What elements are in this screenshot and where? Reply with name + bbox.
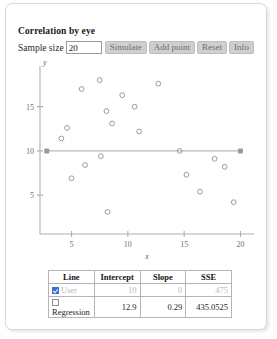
column-header-sse: SSE xyxy=(186,271,232,284)
add-point-button[interactable]: Add point xyxy=(149,41,195,54)
toolbar: Sample size Simulate Add point Reset Inf… xyxy=(18,40,256,55)
regression-line-label: Regression xyxy=(52,307,90,317)
user-line-cell: User xyxy=(49,284,95,297)
sample-size-input[interactable] xyxy=(66,41,102,54)
sample-size-label: Sample size xyxy=(18,43,64,53)
x-tick-label: 15 xyxy=(180,240,188,249)
regression-line-cell: Regression xyxy=(49,297,95,318)
data-point[interactable] xyxy=(198,189,203,194)
x-tick-label: 20 xyxy=(236,240,244,249)
data-point[interactable] xyxy=(132,104,137,109)
statistics-table: Line Intercept Slope SSE User 10 0 475 xyxy=(48,270,232,318)
data-point[interactable] xyxy=(104,109,109,114)
info-button[interactable]: Info xyxy=(229,41,254,54)
reset-button[interactable]: Reset xyxy=(197,41,227,54)
y-tick-label: 5 xyxy=(30,191,34,200)
regression-line-checkbox[interactable] xyxy=(52,299,59,306)
x-tick-label: 5 xyxy=(70,240,74,249)
user-slope-value: 0 xyxy=(140,284,186,297)
x-axis-label: x xyxy=(144,252,149,261)
user-line-label: User xyxy=(61,285,77,295)
regression-slope-value: 0.29 xyxy=(140,297,186,318)
table-header-row: Line Intercept Slope SSE xyxy=(49,271,232,284)
user-line-handle[interactable] xyxy=(238,148,243,153)
data-point[interactable] xyxy=(65,125,70,130)
page-title: Correlation by eye xyxy=(18,26,95,36)
user-line-handle[interactable] xyxy=(44,148,49,153)
x-tick-label: 10 xyxy=(124,240,132,249)
user-line-checkbox[interactable] xyxy=(52,287,59,294)
plot-canvas[interactable]: 510152051015yx xyxy=(14,56,260,261)
y-tick-label: 15 xyxy=(26,103,34,112)
regression-sse-value: 435.0525 xyxy=(186,297,232,318)
column-header-intercept: Intercept xyxy=(94,271,140,284)
data-point[interactable] xyxy=(79,87,84,92)
scatter-plot[interactable]: 510152051015yx xyxy=(14,56,260,261)
table-row: Regression 12.9 0.29 435.0525 xyxy=(49,297,232,318)
data-point[interactable] xyxy=(110,121,115,126)
table-row: User 10 0 475 xyxy=(49,284,232,297)
data-point[interactable] xyxy=(97,78,102,83)
data-point[interactable] xyxy=(231,200,236,205)
data-point[interactable] xyxy=(69,176,74,181)
applet-card: Correlation by eye Sample size Simulate … xyxy=(5,3,267,330)
column-header-line: Line xyxy=(49,271,95,284)
data-point[interactable] xyxy=(98,154,103,159)
simulate-button[interactable]: Simulate xyxy=(105,41,147,54)
data-point[interactable] xyxy=(222,164,227,169)
y-axis-label: y xyxy=(42,58,47,67)
user-sse-value: 475 xyxy=(186,284,232,297)
data-point[interactable] xyxy=(83,163,88,168)
data-point[interactable] xyxy=(120,93,125,98)
data-point[interactable] xyxy=(137,129,142,134)
y-tick-label: 10 xyxy=(26,147,34,156)
data-point[interactable] xyxy=(184,172,189,177)
user-intercept-value: 10 xyxy=(94,284,140,297)
column-header-slope: Slope xyxy=(140,271,186,284)
regression-intercept-value: 12.9 xyxy=(94,297,140,318)
data-point[interactable] xyxy=(156,81,161,86)
data-point[interactable] xyxy=(105,209,110,214)
data-point[interactable] xyxy=(59,136,64,141)
data-point[interactable] xyxy=(212,156,217,161)
